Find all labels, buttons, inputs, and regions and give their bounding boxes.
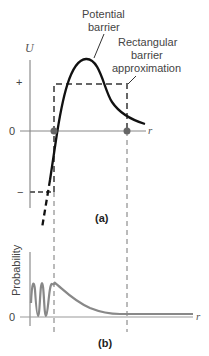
panel-b-label: (b) (98, 337, 112, 349)
tunneling-diagram: U r + 0 − Potential barrier Rectangular … (0, 0, 209, 356)
potential-leader (94, 34, 104, 58)
panel-a-label: (a) (95, 212, 109, 224)
potential-curve (50, 59, 145, 180)
prob-r-label: r (196, 310, 201, 322)
tick-minus: − (17, 186, 23, 198)
prob-tick-zero: 0 (9, 311, 15, 323)
turning-point-left (51, 128, 58, 135)
potential-label-1: Potential (82, 8, 125, 20)
prob-axis-label: Probability (10, 244, 22, 296)
rect-label-1: Rectangular (118, 36, 178, 48)
potential-curve-dashed (42, 180, 50, 228)
rect-label-2: barrier (131, 49, 163, 61)
rect-label-3: approximation (112, 62, 181, 74)
rect-leader (128, 76, 136, 84)
r-axis-label: r (148, 124, 153, 136)
probability-curve (31, 283, 193, 316)
tick-plus: + (16, 76, 22, 88)
u-axis-label: U (25, 41, 35, 55)
turning-point-right (124, 128, 131, 135)
potential-label-2: barrier (88, 21, 120, 33)
tick-zero: 0 (9, 125, 15, 137)
rectangular-barrier (54, 84, 127, 192)
